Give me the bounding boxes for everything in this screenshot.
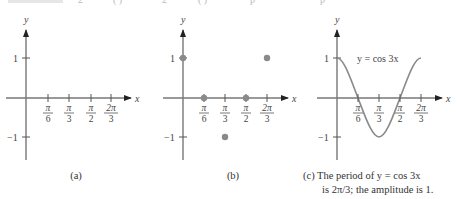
y-tick-label-1: 1 — [170, 53, 175, 64]
y-tick-label-neg1: −1 — [164, 132, 175, 143]
svg-text:2π: 2π — [262, 103, 272, 113]
svg-text:3: 3 — [419, 114, 424, 124]
svg-text:6: 6 — [202, 114, 207, 124]
svg-text:π: π — [89, 103, 94, 113]
svg-text:2: 2 — [89, 114, 94, 124]
caption-c-line2: is 2π/3; the amplitude is 1. — [322, 184, 433, 195]
svg-text:p: p — [250, 0, 255, 5]
y-tick-label-1: 1 — [324, 53, 329, 64]
caption-b: (b) — [227, 170, 240, 182]
svg-text:( ): ( ) — [113, 0, 122, 6]
svg-text:3: 3 — [223, 114, 228, 124]
svg-text:2: 2 — [398, 114, 403, 124]
svg-text:p: p — [320, 0, 325, 5]
point-pi-3 — [222, 134, 228, 140]
svg-text:2π: 2π — [106, 103, 116, 113]
svg-text:3: 3 — [377, 114, 382, 124]
svg-text:2: 2 — [78, 0, 83, 5]
svg-text:π: π — [202, 103, 207, 113]
svg-text:2π: 2π — [416, 103, 426, 113]
clipped-top-text: 2 ( ) 2 ( ) p p — [8, 0, 325, 6]
point-0 — [180, 55, 186, 61]
svg-text:( ): ( ) — [198, 0, 207, 6]
svg-text:π: π — [377, 103, 382, 113]
svg-text:6: 6 — [46, 114, 51, 124]
panel-a: y x 1 −1 π 6 π 3 π 2 2π 3 (a) — [6, 14, 140, 182]
caption-a: (a) — [70, 170, 82, 182]
svg-text:π: π — [398, 103, 403, 113]
svg-text:6: 6 — [356, 114, 361, 124]
svg-text:2: 2 — [162, 0, 167, 5]
point-2pi-3 — [264, 55, 270, 61]
svg-text:π: π — [46, 103, 51, 113]
y-axis-label: y — [180, 14, 186, 25]
x-axis-label: x — [134, 93, 140, 104]
point-pi-6 — [201, 95, 207, 101]
svg-text:π: π — [223, 103, 228, 113]
panel-b: y x 1 −1 π 6 π 3 π 2 2π 3 — [163, 14, 297, 182]
svg-text:3: 3 — [265, 114, 270, 124]
caption-c-line1: (c) The period of y = cos 3x — [303, 170, 421, 182]
x-axis-label: x — [291, 93, 297, 104]
y-tick-label-1: 1 — [13, 53, 18, 64]
figure-canvas: 2 ( ) 2 ( ) p p y x 1 −1 π 6 π 3 π 2 — [0, 0, 457, 199]
svg-text:2: 2 — [244, 114, 249, 124]
y-tick-label-neg1: −1 — [318, 132, 329, 143]
svg-text:π: π — [356, 103, 361, 113]
y-tick-label-neg1: −1 — [7, 132, 18, 143]
point-pi-2 — [243, 95, 249, 101]
x-axis-label: x — [445, 93, 451, 104]
y-axis-label: y — [334, 14, 340, 25]
svg-text:3: 3 — [109, 114, 114, 124]
y-axis-label: y — [23, 14, 29, 25]
svg-text:π: π — [67, 103, 72, 113]
svg-text:π: π — [244, 103, 249, 113]
curve-label: y = cos 3x — [357, 53, 398, 64]
svg-text:3: 3 — [67, 114, 72, 124]
panel-c: y x 1 −1 π 6 π 3 π 2 2π 3 y = cos 3x (c)… — [303, 14, 451, 195]
